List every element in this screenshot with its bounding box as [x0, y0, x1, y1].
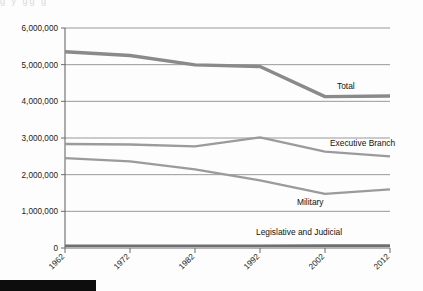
series-label-legislative-and-judicial: Legislative and Judicial	[256, 227, 342, 237]
y-axis-labels: 01,000,0002,000,0003,000,0004,000,0005,0…	[22, 24, 59, 253]
y-axis-tick-label: 1,000,000	[22, 207, 59, 216]
series-labels: TotalExecutive BranchMilitaryLegislative…	[256, 81, 396, 237]
y-axis-tick-label: 4,000,000	[22, 97, 59, 106]
series-label-executive-branch: Executive Branch	[330, 138, 396, 148]
line-chart: 01,000,0002,000,0003,000,0004,000,0005,0…	[0, 0, 423, 291]
y-axis-tick-label: 5,000,000	[22, 61, 59, 70]
x-axis-labels: 196219721982199220022012	[47, 252, 392, 272]
chart-svg: 01,000,0002,000,0003,000,0004,000,0005,0…	[0, 0, 423, 291]
x-axis-tick-label: 2012	[372, 252, 392, 272]
y-axis-tick-label: 2,000,000	[22, 171, 59, 180]
x-axis-tick-label: 2002	[307, 252, 327, 272]
chart-page: g y gg g 01,000,0002,000,0003,000,0004,0…	[0, 0, 423, 291]
x-axis-tick-label: 1972	[112, 252, 132, 272]
series-line-military	[65, 158, 390, 194]
y-axis-tick-label: 3,000,000	[22, 134, 59, 143]
x-axis-tick-label: 1992	[242, 252, 262, 272]
y-axis-tick-label: 6,000,000	[22, 24, 59, 33]
series-label-military: Military	[297, 197, 324, 207]
x-tickmarks	[65, 248, 390, 253]
x-axis-tick-label: 1982	[177, 252, 197, 272]
x-axis-tick-label: 1962	[47, 252, 67, 272]
series-label-total: Total	[337, 81, 355, 91]
y-axis-tick-label: 0	[53, 244, 58, 253]
page-footer-bar	[0, 280, 96, 291]
